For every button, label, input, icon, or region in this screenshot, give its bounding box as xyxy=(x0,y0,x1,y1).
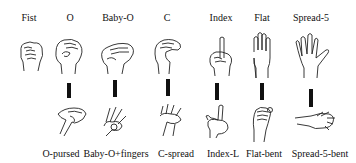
label-baby-o-fingers: Baby-O+fingers xyxy=(83,148,148,159)
label-o: O xyxy=(66,12,73,23)
label-flat-bent: Flat-bent xyxy=(246,148,282,159)
o-pursed-hand-icon xyxy=(56,104,88,142)
transition-bar-c xyxy=(166,79,170,96)
label-o-pursed: O-pursed xyxy=(42,148,79,159)
label-index: Index xyxy=(210,12,233,23)
label-baby-o: Baby-O xyxy=(102,12,134,23)
flat-hand-icon xyxy=(248,30,278,84)
baby-o-hand-icon xyxy=(98,38,138,80)
label-c-spread: C-spread xyxy=(158,148,194,159)
transition-bar-index xyxy=(215,83,219,100)
flat-bent-hand-icon xyxy=(248,104,278,148)
index-l-hand-icon xyxy=(204,104,234,142)
spread-5-bent-hand-icon xyxy=(293,108,337,140)
spread-5-hand-icon xyxy=(292,30,334,84)
label-spread-5-bent: Spread-5-bent xyxy=(292,148,349,159)
transition-bar-spread-5 xyxy=(309,89,313,107)
label-flat: Flat xyxy=(254,12,270,23)
o-hand-icon xyxy=(52,36,86,80)
label-fist: Fist xyxy=(21,12,36,23)
label-c: C xyxy=(164,12,171,23)
c-spread-hand-icon xyxy=(157,100,187,142)
baby-o-fingers-hand-icon xyxy=(100,104,130,142)
fist-hand-icon xyxy=(16,38,46,78)
transition-bar-o xyxy=(67,83,71,98)
c-hand-icon xyxy=(152,36,184,80)
transition-bar-flat xyxy=(260,83,264,100)
index-hand-icon xyxy=(206,34,236,82)
transition-bar-baby-o xyxy=(113,80,117,97)
label-index-l: Index-L xyxy=(207,148,239,159)
label-spread-5: Spread-5 xyxy=(293,12,329,23)
